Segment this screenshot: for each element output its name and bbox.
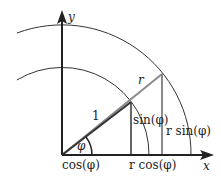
cos-label: cos(φ) xyxy=(62,159,100,171)
outer-arc-radius-r xyxy=(17,25,191,155)
rsin-label: r sin(φ) xyxy=(166,125,211,137)
phi-label: φ xyxy=(77,140,85,152)
unit-hyp-label: 1 xyxy=(92,110,100,122)
angle-arc xyxy=(86,137,92,155)
x-axis-label: x xyxy=(203,160,210,172)
rcos-label: r cos(φ) xyxy=(129,159,176,171)
sin-label: sin(φ) xyxy=(133,114,169,126)
y-axis-label: y xyxy=(68,11,75,23)
trig-diagram xyxy=(0,0,221,182)
r-hyp-label: r xyxy=(138,74,144,86)
